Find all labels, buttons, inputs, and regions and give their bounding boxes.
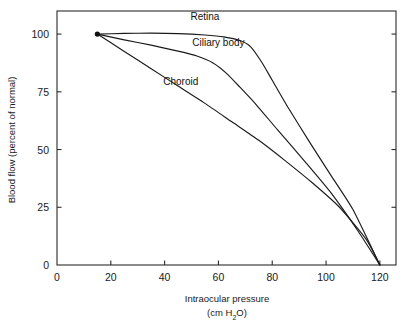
- x-tick-label: 0: [54, 271, 60, 283]
- curve-ciliary-body: [97, 34, 380, 265]
- y-axis-ticks-right: [392, 34, 397, 207]
- y-tick-label: 75: [37, 86, 49, 98]
- blood-flow-vs-intraocular-pressure-chart: 020406080100120 0255075100 RetinaCiliary…: [0, 0, 413, 324]
- curve-choroid: [97, 34, 380, 265]
- series-label-choroid: Choroid: [163, 76, 198, 87]
- series-label-ciliary-body: Ciliary body: [192, 37, 244, 48]
- data-curves: [97, 33, 380, 265]
- y-tick-label: 25: [37, 201, 49, 213]
- x-tick-label: 100: [317, 271, 335, 283]
- x-tick-label: 60: [213, 271, 225, 283]
- origin-marker: [95, 31, 100, 36]
- y-tick-label: 0: [43, 259, 49, 271]
- series-label-retina: Retina: [191, 11, 220, 22]
- x-tick-label: 20: [105, 271, 117, 283]
- x-tick-label: 120: [371, 271, 389, 283]
- curve-retina: [97, 33, 380, 265]
- series-annotations: RetinaCiliary bodyChoroid: [163, 11, 244, 87]
- plot-frame: [57, 11, 396, 265]
- y-axis-title: Blood flow (percent of normal): [6, 77, 17, 204]
- x-axis-tick-labels: 020406080100120: [54, 271, 389, 283]
- y-axis-tick-labels: 0255075100: [31, 28, 49, 271]
- chart-figure: 020406080100120 0255075100 RetinaCiliary…: [0, 0, 413, 324]
- x-tick-label: 80: [266, 271, 278, 283]
- y-tick-label: 100: [31, 28, 49, 40]
- x-axis-ticks: [111, 261, 380, 266]
- plot-border: [57, 11, 396, 265]
- x-tick-label: 40: [159, 271, 171, 283]
- x-axis-title: Intraocular pressure: [185, 293, 269, 304]
- x-axis-units: (cm H2O): [207, 307, 247, 321]
- origin-dot: [95, 31, 100, 36]
- y-axis-ticks: [57, 34, 62, 207]
- y-tick-label: 50: [37, 144, 49, 156]
